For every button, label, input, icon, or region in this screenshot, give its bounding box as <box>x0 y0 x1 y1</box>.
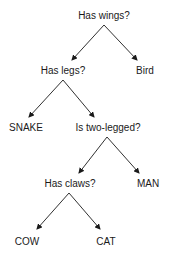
edge-arrow-has_legs-to-is_two_legged <box>63 80 94 117</box>
node-has-wings: Has wings? <box>78 11 130 21</box>
edge-arrow-has_claws-to-cow <box>37 193 69 229</box>
node-bird: Bird <box>136 66 154 76</box>
node-cow: COW <box>15 237 39 247</box>
edge-arrow-has_wings-to-has_legs <box>72 25 104 60</box>
edge-arrow-has_claws-to-cat <box>69 193 100 229</box>
edge-arrow-is_two_legged-to-man <box>107 137 139 173</box>
node-cat: CAT <box>96 237 115 247</box>
node-snake: SNAKE <box>9 123 43 133</box>
edge-arrow-is_two_legged-to-has_claws <box>79 137 107 173</box>
edge-arrow-has_legs-to-snake <box>29 80 63 117</box>
node-man: MAN <box>137 179 159 189</box>
node-is-two-legged: Is two-legged? <box>75 123 140 133</box>
node-has-legs: Has legs? <box>41 66 85 76</box>
edge-arrow-has_wings-to-bird <box>104 25 137 60</box>
node-has-claws: Has claws? <box>44 179 95 189</box>
